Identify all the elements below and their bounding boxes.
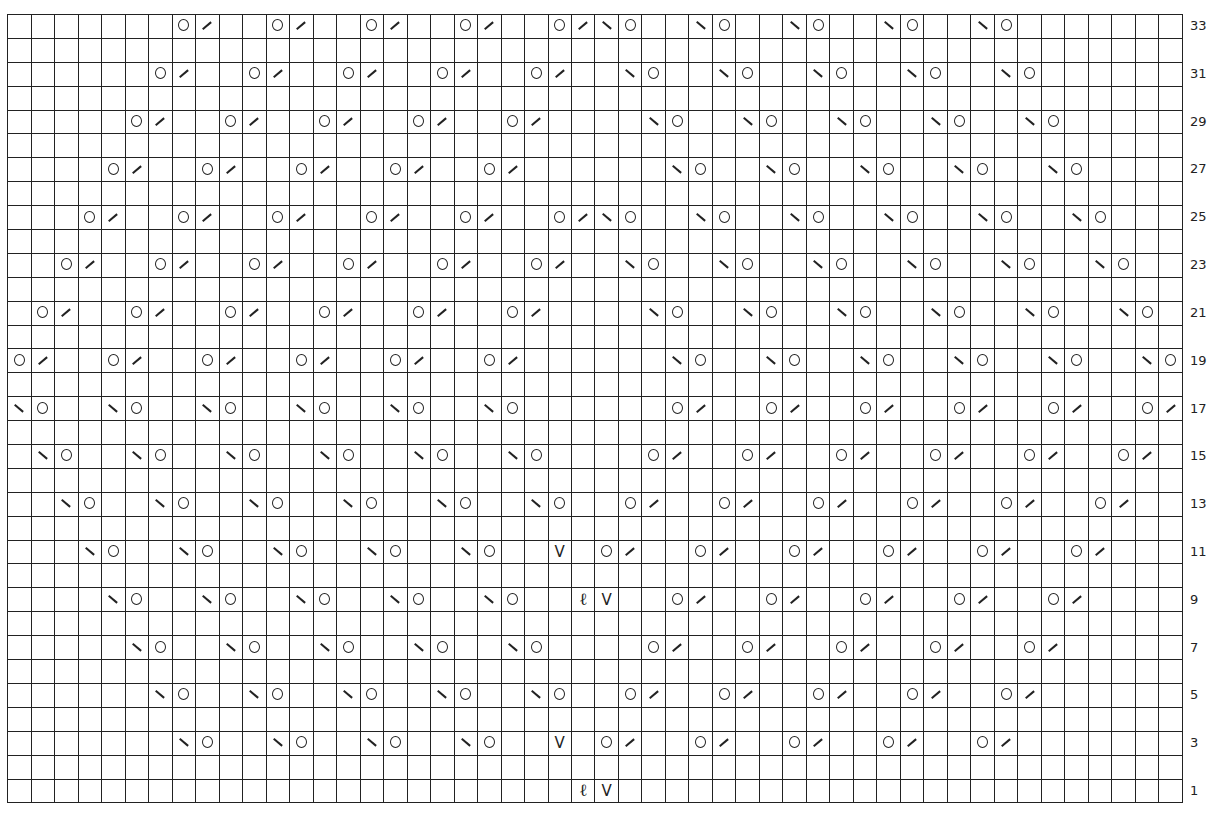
chart-cell: [243, 468, 267, 492]
chart-cell: [1041, 660, 1065, 684]
chart-cell: [501, 134, 525, 158]
chart-cell: [994, 182, 1018, 206]
chart-cell: [219, 397, 243, 421]
chart-cell: [290, 230, 314, 254]
yarn-over-icon: [672, 402, 683, 414]
chart-cell: [337, 158, 361, 182]
chart-cell: [618, 373, 642, 397]
chart-cell: [290, 636, 314, 660]
chart-cell: [454, 277, 478, 301]
chart-cell: [431, 253, 455, 277]
ssk-icon: [132, 643, 141, 651]
chart-cell: [102, 731, 126, 755]
yarn-over-icon: [366, 19, 377, 31]
chart-cell: [689, 516, 713, 540]
chart-cell: [736, 564, 760, 588]
yarn-over-icon: [319, 306, 330, 318]
chart-cell: [149, 158, 173, 182]
chart-cell: [1065, 301, 1089, 325]
chart-cell: [384, 301, 408, 325]
chart-cell: [830, 349, 854, 373]
chart-cell: [1041, 707, 1065, 731]
chart-cell: [783, 158, 807, 182]
chart-cell: [853, 397, 877, 421]
yarn-over-icon: [601, 736, 612, 748]
chart-cell: [102, 660, 126, 684]
chart-cell: [1112, 253, 1136, 277]
chart-cell: [1041, 731, 1065, 755]
chart-cell: [783, 253, 807, 277]
chart-cell: [31, 373, 55, 397]
chart-cell: [219, 516, 243, 540]
chart-cell: [806, 445, 830, 469]
chart-cell: [360, 373, 384, 397]
k2tog-icon: [156, 117, 165, 125]
chart-cell: [1065, 110, 1089, 134]
chart-cell: [501, 492, 525, 516]
chart-cell: [1135, 134, 1159, 158]
chart-cell: [266, 110, 290, 134]
chart-cell: [125, 158, 149, 182]
chart-cell: [454, 373, 478, 397]
chart-cell: [642, 253, 666, 277]
yarn-over-icon: [413, 402, 424, 414]
chart-cell: [994, 206, 1018, 230]
chart-cell: [55, 182, 79, 206]
chart-cell: [924, 683, 948, 707]
chart-cell: [548, 397, 572, 421]
chart-cell: [431, 301, 455, 325]
chart-cell: [853, 636, 877, 660]
chart-cell: [407, 516, 431, 540]
chart-cell: [548, 421, 572, 445]
chart-cell: [149, 683, 173, 707]
yarn-over-icon: [437, 67, 448, 79]
chart-cell: [712, 636, 736, 660]
k2tog-icon: [884, 404, 893, 412]
ssk-icon: [861, 356, 870, 364]
chart-cell: [360, 612, 384, 636]
chart-cell: [290, 277, 314, 301]
k2tog-icon: [814, 547, 823, 555]
chart-cell: [830, 468, 854, 492]
chart-cell: [407, 492, 431, 516]
chart-cell: [501, 349, 525, 373]
chart-cell: [243, 612, 267, 636]
chart-cell: [783, 325, 807, 349]
chart-cell: [618, 612, 642, 636]
chart-cell: [806, 62, 830, 86]
chart-cell: [196, 62, 220, 86]
yarn-over-icon: [813, 211, 824, 223]
chart-cell: [384, 755, 408, 779]
chart-cell: [736, 660, 760, 684]
chart-cell: [947, 683, 971, 707]
chart-cell: [947, 468, 971, 492]
chart-cell: [994, 707, 1018, 731]
chart-cell: [31, 683, 55, 707]
chart-cell: [31, 62, 55, 86]
chart-cell: [196, 230, 220, 254]
chart-cell: [431, 110, 455, 134]
chart-cell: [313, 492, 337, 516]
chart-cell: [877, 492, 901, 516]
chart-cell: [266, 540, 290, 564]
chart-cell: [1018, 588, 1042, 612]
chart-cell: [900, 373, 924, 397]
chart-cell: [31, 134, 55, 158]
chart-cell: [431, 373, 455, 397]
yarn-over-icon: [249, 449, 260, 461]
chart-cell: [337, 707, 361, 731]
chart-cell: [478, 86, 502, 110]
yarn-over-icon: [61, 449, 72, 461]
chart-cell: [712, 15, 736, 39]
chart-cell: [595, 755, 619, 779]
chart-cell: [642, 38, 666, 62]
chart-cell: [712, 397, 736, 421]
chart-cell: [384, 540, 408, 564]
chart-cell: [172, 779, 196, 803]
ssk-icon: [414, 452, 423, 460]
chart-cell: [384, 373, 408, 397]
chart-cell: [971, 325, 995, 349]
yarn-over-icon: [272, 688, 283, 700]
chart-cell: [290, 421, 314, 445]
chart-cell: [900, 110, 924, 134]
